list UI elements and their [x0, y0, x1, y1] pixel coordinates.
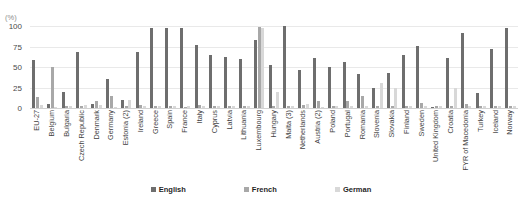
bar-english — [269, 65, 272, 108]
bar-group — [222, 26, 237, 108]
bar-german — [335, 106, 338, 108]
x-axis-tick-cell: Turkey — [473, 110, 488, 176]
x-axis-tick-cell: Germany — [104, 110, 119, 176]
bar-german — [321, 107, 324, 108]
x-axis-tick-cell: Austria (2) — [311, 110, 326, 176]
bar-german — [158, 106, 161, 108]
bar-english — [298, 70, 301, 108]
bar-english — [209, 55, 212, 108]
bar-english — [121, 100, 124, 108]
y-axis-tick-50: 50 — [0, 63, 22, 72]
bar-german — [69, 106, 72, 108]
bar-german — [217, 106, 220, 108]
bar-english — [32, 60, 35, 108]
bar-french — [36, 97, 39, 108]
x-axis-tick-cell: Romania — [355, 110, 370, 176]
y-axis-tick-100: 100 — [0, 22, 22, 31]
bar-group — [311, 26, 326, 108]
bar-german — [394, 88, 397, 109]
bar-english — [76, 52, 79, 108]
x-axis-label: Austria (2) — [315, 110, 322, 144]
bar-german — [84, 105, 87, 108]
x-axis-label: Lithuania — [241, 110, 248, 140]
bar-french — [465, 104, 468, 108]
bar-french — [125, 106, 128, 108]
bar-group — [237, 26, 252, 108]
bar-german — [468, 106, 471, 108]
x-axis-tick-cell: Latvia — [222, 110, 237, 176]
bar-french — [228, 106, 231, 108]
bar-group — [503, 26, 518, 108]
bar-english — [106, 79, 109, 108]
y-axis-tick-25: 25 — [0, 84, 22, 93]
bar-french — [509, 106, 512, 108]
x-axis-tick-cell: Portugal — [340, 110, 355, 176]
legend-swatch-english — [151, 187, 156, 192]
bar-english — [62, 92, 65, 108]
legend-item-german[interactable]: German — [335, 185, 371, 194]
plot-area: 1007550250 — [30, 26, 518, 108]
bar-french — [317, 101, 320, 108]
bar-group — [370, 26, 385, 108]
bar-group — [281, 26, 296, 108]
bar-french — [65, 106, 68, 108]
legend-item-english[interactable]: English — [151, 185, 186, 194]
bar-french — [479, 106, 482, 108]
bar-english — [490, 49, 493, 108]
bar-french — [391, 106, 394, 108]
bar-german — [143, 106, 146, 108]
bar-german — [409, 106, 412, 108]
bar-french — [51, 67, 54, 108]
x-axis-label: Italy — [196, 110, 203, 123]
bar-english — [180, 28, 183, 108]
bar-group — [473, 26, 488, 108]
bar-french — [184, 107, 187, 108]
bar-group — [488, 26, 503, 108]
x-axis-label: Iceland — [492, 110, 499, 134]
x-axis-label: Sweden — [418, 110, 425, 136]
x-axis-tick-cell: FYR of Macedonia — [459, 110, 474, 176]
x-axis-label: Finland — [403, 110, 410, 134]
bar-french — [361, 96, 364, 108]
x-axis-tick-cell: Netherlands — [296, 110, 311, 176]
x-axis-label: Portugal — [344, 110, 351, 137]
bar-english — [372, 88, 375, 109]
x-axis-tick-cell: Ireland — [133, 110, 148, 176]
bar-group — [74, 26, 89, 108]
bar-french — [139, 105, 142, 108]
bar-german — [513, 106, 516, 108]
bar-group — [163, 26, 178, 108]
bar-group — [252, 26, 267, 108]
x-axis-tick-cell: Greece — [148, 110, 163, 176]
legend-swatch-french — [244, 187, 249, 192]
x-axis-label: Turkey — [477, 110, 484, 132]
bar-group — [429, 26, 444, 108]
bar-french — [198, 105, 201, 108]
bar-group — [414, 26, 429, 108]
legend-item-french[interactable]: French — [244, 185, 277, 194]
bar-french — [376, 106, 379, 108]
bar-english — [47, 104, 50, 108]
bar-german — [128, 100, 131, 108]
x-axis-category-labels: EU-27BelgiumBulgariaCzech RepublicDenmar… — [30, 110, 518, 176]
x-axis-tick-cell: Denmark — [89, 110, 104, 176]
bar-group — [355, 26, 370, 108]
bar-french — [494, 106, 497, 108]
x-axis-tick-cell: Bulgaria — [60, 110, 75, 176]
bar-group — [326, 26, 341, 108]
bar-group — [30, 26, 45, 108]
bar-group — [89, 26, 104, 108]
bar-group — [296, 26, 311, 108]
x-axis-tick-cell: Hungary — [267, 110, 282, 176]
x-axis-label: Malta (3) — [285, 110, 292, 139]
bar-french — [287, 106, 290, 108]
x-axis-label: Latvia — [226, 110, 233, 129]
bar-group — [104, 26, 119, 108]
bar-english — [328, 67, 331, 108]
bar-german — [54, 107, 57, 108]
bar-group — [119, 26, 134, 108]
bar-french — [110, 96, 113, 108]
bar-group — [385, 26, 400, 108]
bar-french — [258, 27, 261, 108]
bar-french — [302, 105, 305, 108]
